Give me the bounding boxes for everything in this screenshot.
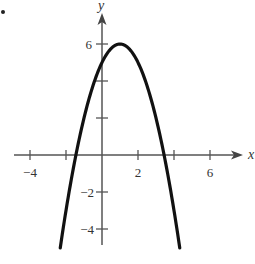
x-tick-label: 6 (207, 165, 214, 180)
y-tick-label: −2 (80, 185, 94, 200)
parabola-curve (60, 44, 180, 248)
x-tick-label: −4 (23, 165, 37, 180)
x-tick-label: 2 (135, 165, 142, 180)
x-axis-label: x (247, 147, 255, 162)
x-axis (14, 150, 243, 160)
y-tick-label: −4 (80, 222, 94, 237)
item-bullet (1, 10, 5, 14)
y-axis-label: y (96, 0, 105, 13)
y-axis (96, 13, 108, 245)
y-tick-label: 6 (86, 37, 93, 52)
parabola-graph: −4 2 6 6 −2 −4 x y (0, 0, 255, 264)
